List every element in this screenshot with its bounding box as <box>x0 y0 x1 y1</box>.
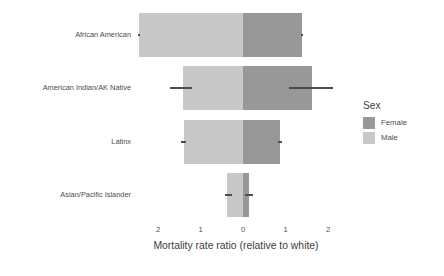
legend-item-male[interactable]: Male <box>363 132 443 144</box>
legend-item-female[interactable]: Female <box>363 117 443 129</box>
x-axis-tick-3: 1 <box>283 226 287 234</box>
bar-group-2 <box>136 120 336 164</box>
y-axis-label-2: Latinx <box>111 138 131 145</box>
x-axis-tick-2: 0 <box>241 226 245 234</box>
legend-swatch-male <box>363 132 375 144</box>
x-axis-ticks: 21012 <box>136 226 336 240</box>
legend-label-female: Female <box>381 119 407 127</box>
errorbar-female-2 <box>278 141 282 143</box>
plot-area <box>136 8 336 222</box>
x-axis-tick-1: 1 <box>198 226 202 234</box>
y-axis-label-1: American Indian/AK Native <box>43 84 131 91</box>
x-axis-title: Mortality rate ratio (relative to white) <box>136 240 336 251</box>
bar-group-0 <box>136 13 336 57</box>
errorbar-female-3 <box>245 194 253 196</box>
bar-group-1 <box>136 66 336 110</box>
x-axis-tick-0: 2 <box>156 226 160 234</box>
bar-female-2[interactable] <box>243 120 280 164</box>
bar-group-3 <box>136 173 336 217</box>
legend-swatch-female <box>363 117 375 129</box>
y-axis-label-3: Asian/Pacific Islander <box>60 191 131 198</box>
x-axis-tick-4: 2 <box>326 226 330 234</box>
bar-female-0[interactable] <box>243 13 302 57</box>
errorbar-male-1 <box>170 87 192 89</box>
errorbar-female-0 <box>301 34 304 36</box>
errorbar-male-2 <box>181 141 186 143</box>
bar-male-1[interactable] <box>183 66 243 110</box>
legend-title: Sex <box>363 101 443 111</box>
bar-male-2[interactable] <box>184 120 243 164</box>
legend-label-male: Male <box>381 134 398 142</box>
errorbar-female-1 <box>289 87 333 89</box>
y-axis-labels: African American American Indian/AK Nati… <box>0 0 131 276</box>
errorbar-male-0 <box>138 34 141 36</box>
y-axis-label-0: African American <box>75 31 131 38</box>
chart-container: African American American Indian/AK Nati… <box>0 0 444 276</box>
legend: Sex Female Male <box>363 101 443 147</box>
errorbar-male-3 <box>225 194 232 196</box>
bar-male-0[interactable] <box>139 13 243 57</box>
